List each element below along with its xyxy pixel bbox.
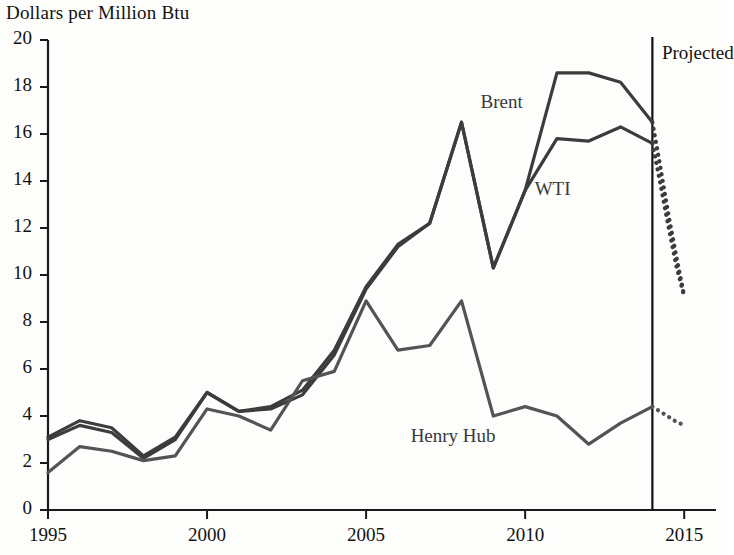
series-line-henry-hub [48, 301, 652, 473]
y-axis-tick-label: 10 [0, 262, 32, 284]
y-axis-tick-label: 14 [0, 168, 32, 190]
series-line-wti [48, 122, 652, 456]
y-axis-tick-label: 20 [0, 27, 32, 49]
series-label-henry-hub: Henry Hub [411, 425, 496, 447]
x-axis-tick-label: 2005 [331, 524, 401, 546]
x-axis-tick-label: 2015 [649, 524, 719, 546]
x-axis-tick-label: 2000 [172, 524, 242, 546]
y-axis-tick-label: 4 [0, 403, 32, 425]
series-label-wti: WTI [535, 178, 571, 200]
x-axis-tick-label: 1995 [13, 524, 83, 546]
series-line-brent [48, 73, 652, 458]
y-axis-tick-label: 6 [0, 356, 32, 378]
y-axis-tick-label: 2 [0, 450, 32, 472]
projected-label: Projected [662, 42, 734, 64]
series-label-brent: Brent [481, 91, 523, 113]
series-line-henry-hub-projected [652, 407, 684, 426]
y-axis-tick-label: 12 [0, 215, 32, 237]
series-line-wti-projected [652, 143, 684, 296]
series-line-brent-projected [652, 122, 684, 296]
y-axis-tick-label: 8 [0, 309, 32, 331]
x-axis-tick-label: 2010 [490, 524, 560, 546]
y-axis-tick-label: 0 [0, 497, 32, 519]
y-axis-tick-label: 18 [0, 74, 32, 96]
y-axis-tick-label: 16 [0, 121, 32, 143]
